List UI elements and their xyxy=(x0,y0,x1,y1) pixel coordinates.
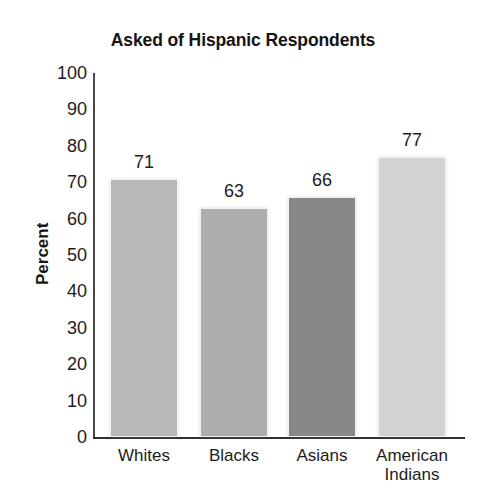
bar-value-label: 66 xyxy=(272,171,372,189)
y-tick-label: 20 xyxy=(39,355,87,373)
chart-figure: Asked of Hispanic Respondents Percent 10… xyxy=(0,0,486,504)
plot-area: 1009080706050403020100 71636677 WhitesBl… xyxy=(0,0,486,504)
y-tick-label: 90 xyxy=(39,100,87,118)
x-tick-label: Blacks xyxy=(184,446,284,465)
y-tick-label: 10 xyxy=(39,392,87,410)
y-tick-label: 60 xyxy=(39,210,87,228)
y-tick-label: 30 xyxy=(39,319,87,337)
x-axis-line xyxy=(93,437,465,439)
bar-value-label: 63 xyxy=(184,182,284,200)
y-tick-label: 100 xyxy=(39,64,87,82)
x-tick-label-line: American xyxy=(362,446,462,465)
y-tick-label: 0 xyxy=(39,428,87,446)
x-tick-label: Whites xyxy=(94,446,194,465)
bar xyxy=(110,179,178,437)
y-tick-label: 40 xyxy=(39,282,87,300)
bar xyxy=(378,157,446,437)
y-tick-label: 50 xyxy=(39,246,87,264)
y-axis-tick-labels: 1009080706050403020100 xyxy=(35,0,87,504)
x-tick-label-line: Whites xyxy=(94,446,194,465)
x-tick-label-line: Indians xyxy=(362,465,462,484)
bar-value-label: 77 xyxy=(362,131,462,149)
bar xyxy=(288,197,356,437)
y-tick-label: 70 xyxy=(39,173,87,191)
x-tick-label-line: Blacks xyxy=(184,446,284,465)
y-axis-line xyxy=(93,73,95,438)
x-tick-label: AmericanIndians xyxy=(362,446,462,484)
bar xyxy=(200,208,268,437)
bar-value-label: 71 xyxy=(94,153,194,171)
x-tick-label-line: Asians xyxy=(272,446,372,465)
y-tick-label: 80 xyxy=(39,137,87,155)
x-tick-label: Asians xyxy=(272,446,372,465)
